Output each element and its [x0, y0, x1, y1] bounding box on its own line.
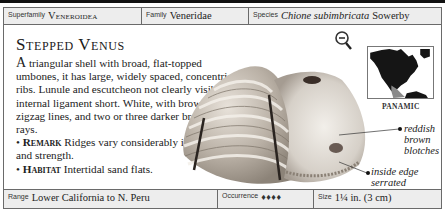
species-label: Species: [253, 11, 278, 18]
page-title: Stepped Venus: [16, 35, 125, 55]
size-label: Size: [318, 193, 332, 200]
family-value: Veneridae: [170, 10, 212, 21]
occurrence-cell: Occurrence ♦♦♦♦: [218, 190, 314, 208]
range-value: Lower California to N. Peru: [32, 192, 150, 203]
occurrence-shell-icons: ♦♦♦♦: [261, 192, 281, 202]
size-cell: Size 1¼ in. (3 cm): [314, 190, 441, 208]
magnifier-minus-icon[interactable]: [334, 30, 354, 52]
habitat-text: Intertidal sand flats.: [61, 163, 153, 175]
habitat-bullet: •: [16, 163, 23, 175]
shell-illustration: [174, 50, 374, 190]
annotation-dot: [398, 127, 402, 131]
superfamily-label: Superfamily: [8, 11, 45, 18]
details-bar: Range Lower California to N. Peru Occurr…: [3, 189, 442, 209]
superfamily-cell: Superfamily Veneroidea: [4, 8, 142, 24]
family-label: Family: [146, 11, 167, 18]
annotation-dot: [366, 171, 370, 175]
top-rule: [0, 0, 445, 3]
species-name: Chione subimbricata: [281, 10, 369, 21]
occurrence-label: Occurrence: [222, 192, 258, 199]
annotation-edge: inside edge serrated: [371, 166, 431, 188]
remark-bullet: •: [16, 136, 23, 148]
map-region-label: PANAMIC: [382, 102, 420, 111]
species-author: Sowerby: [372, 10, 409, 21]
superfamily-value: Veneroidea: [48, 10, 98, 21]
family-cell: Family Veneridae: [142, 8, 249, 24]
entry-panel: Stepped Venus A triangular shell with br…: [3, 25, 442, 189]
annotation-blotches: reddish brown blotches: [404, 123, 444, 156]
classification-bar: Superfamily Veneroidea Family Veneridae …: [3, 7, 442, 25]
habitat-label: Habitat: [23, 163, 61, 175]
size-value: 1¼ in. (3 cm): [335, 192, 392, 203]
species-cell: Species Chione subimbricata Sowerby: [249, 8, 441, 24]
range-map: [367, 46, 434, 99]
description-dropcap: A: [16, 55, 26, 70]
range-label: Range: [8, 193, 29, 200]
remark-label: Remark: [23, 136, 62, 148]
range-cell: Range Lower California to N. Peru: [4, 190, 218, 208]
